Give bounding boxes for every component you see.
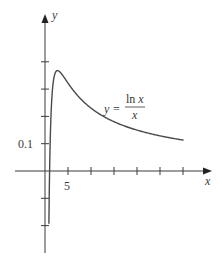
y-axis-arrow-icon [42, 14, 49, 23]
axes [15, 20, 206, 253]
y-axis-label: y [51, 8, 58, 22]
ln-x-over-x-plot: y x 0.1 5 y = ln x x [0, 0, 222, 268]
equation-numerator: ln x [126, 92, 144, 106]
equation-label: y = ln x x [103, 92, 145, 122]
y-tick-label-0.1: 0.1 [18, 137, 33, 151]
curve-ln-x-over-x [49, 71, 183, 224]
x-axis-label: x [204, 174, 211, 188]
equation-denominator: x [131, 108, 138, 122]
equation-lhs: y = [103, 102, 120, 116]
x-tick-label-5: 5 [64, 179, 70, 193]
